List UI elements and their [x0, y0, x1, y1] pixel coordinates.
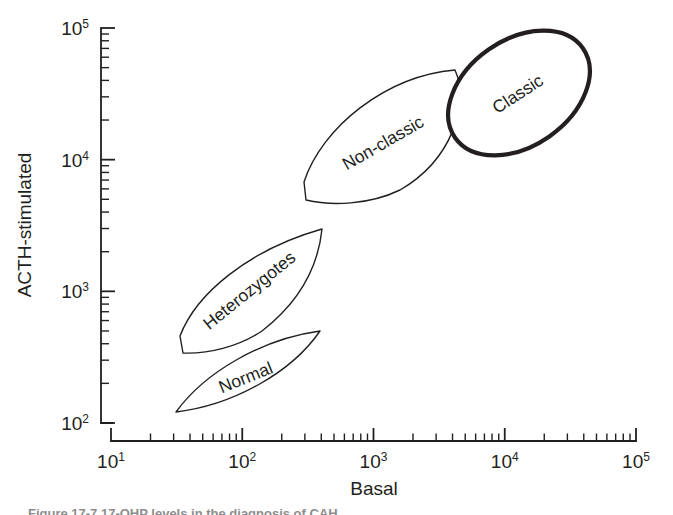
x-axis: [111, 428, 636, 441]
figure-caption-fragment: Figure 17-7 17-OHP levels in the diagnos…: [28, 506, 628, 515]
region-nonclassic[interactable]: Non-classic: [304, 70, 460, 203]
x-axis-ticks: [111, 428, 636, 441]
y-axis-line: [101, 28, 112, 423]
region-classic[interactable]: Classic: [425, 5, 614, 181]
x-tick-label: 101: [97, 450, 125, 472]
y-tick-label: 104: [61, 149, 89, 171]
log-log-region-chart: 102103104105 101102103104105 ACTH-stimul…: [0, 0, 673, 515]
y-axis-tick-labels: 102103104105: [61, 17, 89, 434]
figure-root: 102103104105 101102103104105 ACTH-stimul…: [0, 0, 673, 515]
y-axis-title: ACTH-stimulated: [14, 153, 35, 298]
y-tick-label: 103: [61, 280, 89, 302]
x-tick-label: 104: [491, 450, 519, 472]
x-axis-tick-labels: 101102103104105: [97, 450, 650, 472]
y-axis-ticks: [101, 28, 115, 423]
x-tick-label: 103: [360, 450, 388, 472]
y-tick-label: 102: [61, 412, 89, 434]
y-tick-label: 105: [61, 17, 89, 39]
x-tick-label: 105: [622, 450, 650, 472]
x-axis-title: Basal: [350, 478, 398, 499]
x-tick-label: 102: [228, 450, 256, 472]
y-axis: [101, 28, 115, 423]
